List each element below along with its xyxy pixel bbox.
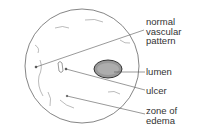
label-lumen: lumen	[146, 67, 172, 77]
label-normal-vascular-pattern: normal vascular pattern	[146, 17, 181, 46]
lumen-shape	[94, 60, 122, 78]
label-zone-of-edema: zone of edema	[146, 106, 177, 125]
field-of-view-circle	[25, 9, 139, 123]
label-ulcer: ulcer	[146, 86, 167, 96]
endoscopic-view-diagram: normal vascular pattern lumen ulcer zone…	[0, 0, 197, 132]
